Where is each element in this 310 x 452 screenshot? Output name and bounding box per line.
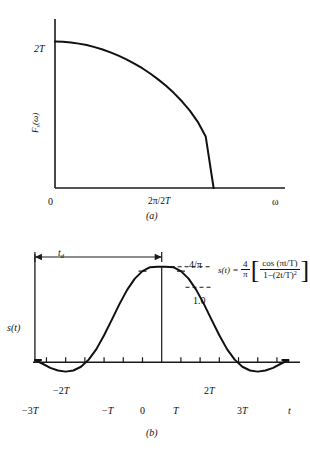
panel-b-xaxis-label: t <box>288 405 291 416</box>
panel-b-xtick-0: 0 <box>140 405 145 416</box>
panel-b-delay-label: td <box>58 248 64 259</box>
panel-a-caption: (a) <box>146 210 158 221</box>
panel-b-annotation-1-0: 1.0 <box>193 295 206 306</box>
panel-b-caption: (b) <box>146 427 158 438</box>
equation-frac-den-exponent: 2 <box>294 270 297 276</box>
panel-b-delay-arrow-left-head <box>35 254 42 260</box>
panel-b-xtick-2T: 2T <box>204 385 215 396</box>
figure-container: 2T Fs(ω) 0 2π/2T ω (a) td 4/π 1.0 s(t) −… <box>0 0 310 452</box>
panel-b-xtick-3T: 3T <box>237 405 248 416</box>
equation-bracket-close: ] <box>301 258 310 281</box>
equation-equals: = <box>231 265 240 275</box>
equation-frac-numerator: cos (πt/T) <box>260 259 299 269</box>
panel-b-xtick-neg2T: −2T <box>53 385 69 396</box>
panel-b-delay-arrow-right-head <box>155 254 162 260</box>
panel-b-yaxis-label: s(t) <box>7 322 20 333</box>
panel-a-plot <box>0 0 310 226</box>
panel-b-equation: s(t) = 4 π [ cos (πt/T) 1−(2t/T)2 ] <box>218 258 309 281</box>
panel-b-xtick-negT: −T <box>102 405 113 416</box>
equation-coefficient: 4 π <box>241 260 250 280</box>
panel-b-annotation-4-over-pi: 4/π <box>189 259 202 270</box>
equation-coef-denominator: π <box>241 270 250 279</box>
panel-b-xtick-T: T <box>173 405 179 416</box>
equation-bracket-open: [ <box>251 258 260 281</box>
panel-a-yaxis-label: Fs(ω) <box>30 113 41 133</box>
panel-a-ytick-2T: 2T <box>34 43 45 54</box>
equation-frac-denominator: 1−(2t/T)2 <box>260 270 299 280</box>
panel-b-xtick-neg3T: −3T <box>22 405 38 416</box>
panel-a-curve <box>55 42 214 188</box>
panel-a-xtick-2pi-2T: 2π/2T <box>148 196 170 206</box>
equation-lhs: s(t) <box>218 265 230 275</box>
panel-a-xtick-0: 0 <box>48 196 53 207</box>
panel-a-xaxis-label: ω <box>272 196 279 207</box>
equation-main-fraction: cos (πt/T) 1−(2t/T)2 <box>260 259 299 280</box>
